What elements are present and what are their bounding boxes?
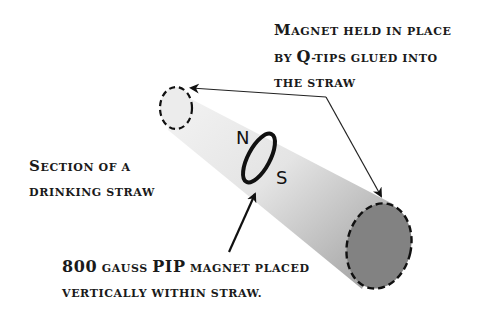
magnet-callout-arrow: [229, 194, 255, 252]
south-pole-label: S: [276, 167, 287, 188]
qtips-callout-label: Magnet held in place by Q-tips glued int…: [274, 18, 452, 96]
magnet-callout-label: 800 gauss PIP magnet placed vertically w…: [62, 254, 310, 306]
straw-section-label: Section of a drinking straw: [29, 154, 155, 205]
north-pole-label: N: [236, 127, 249, 148]
left-end-qtip: [160, 87, 192, 129]
